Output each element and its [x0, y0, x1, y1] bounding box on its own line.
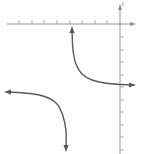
axis-ticks: [19, 20, 124, 150]
chart-plot: y: [0, 0, 141, 154]
upper-right-branch-curve: [72, 30, 132, 85]
y-axis-label: y: [120, 0, 125, 7]
lower-left-branch-curve: [8, 92, 66, 148]
arrow-down-icon: [63, 145, 68, 152]
arrow-up-icon: [69, 26, 74, 33]
arrow-left-icon: [4, 89, 11, 94]
x-axis-arrow-icon: [130, 22, 136, 26]
axes: [7, 4, 136, 154]
curves: [4, 26, 136, 152]
arrow-right-icon: [129, 82, 136, 87]
